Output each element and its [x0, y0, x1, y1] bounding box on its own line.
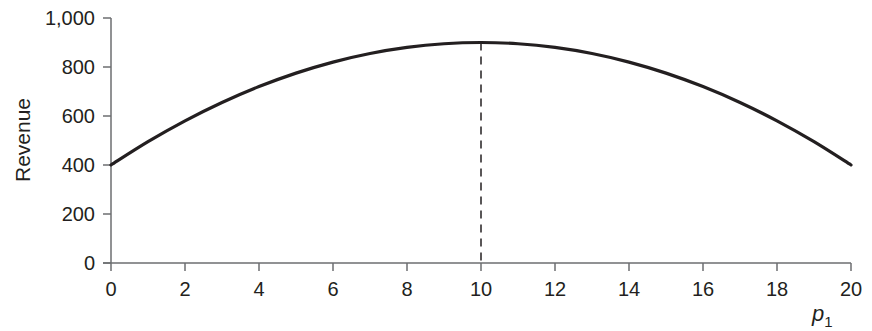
revenue-chart: 02004006008001,000 02468101214161820 Rev… — [0, 0, 872, 331]
x-axis-label: p1 — [811, 301, 833, 330]
x-axis-label-var: p — [811, 301, 824, 326]
x-tick-label: 16 — [692, 278, 714, 300]
x-tick-label: 2 — [179, 278, 190, 300]
x-tick-label: 12 — [544, 278, 566, 300]
y-tick-label: 1,000 — [45, 7, 95, 29]
x-tick-label: 20 — [840, 278, 862, 300]
chart-canvas: 02004006008001,000 02468101214161820 Rev… — [0, 0, 872, 331]
x-tick-label: 14 — [618, 278, 640, 300]
x-axis-label-subscript: 1 — [824, 313, 832, 330]
y-tick-label: 600 — [62, 105, 95, 127]
y-tick-label: 800 — [62, 56, 95, 78]
y-axis-label: Revenue — [11, 98, 34, 182]
y-tick-label: 0 — [84, 252, 95, 274]
x-axis: 02468101214161820 — [103, 263, 862, 300]
x-tick-label: 4 — [253, 278, 264, 300]
x-tick-label: 0 — [105, 278, 116, 300]
x-tick-label: 10 — [470, 278, 492, 300]
x-tick-label: 8 — [401, 278, 412, 300]
x-tick-label: 18 — [766, 278, 788, 300]
y-tick-label: 200 — [62, 203, 95, 225]
x-tick-label: 6 — [327, 278, 338, 300]
y-tick-label: 400 — [62, 154, 95, 176]
y-axis: 02004006008001,000 — [45, 7, 111, 274]
